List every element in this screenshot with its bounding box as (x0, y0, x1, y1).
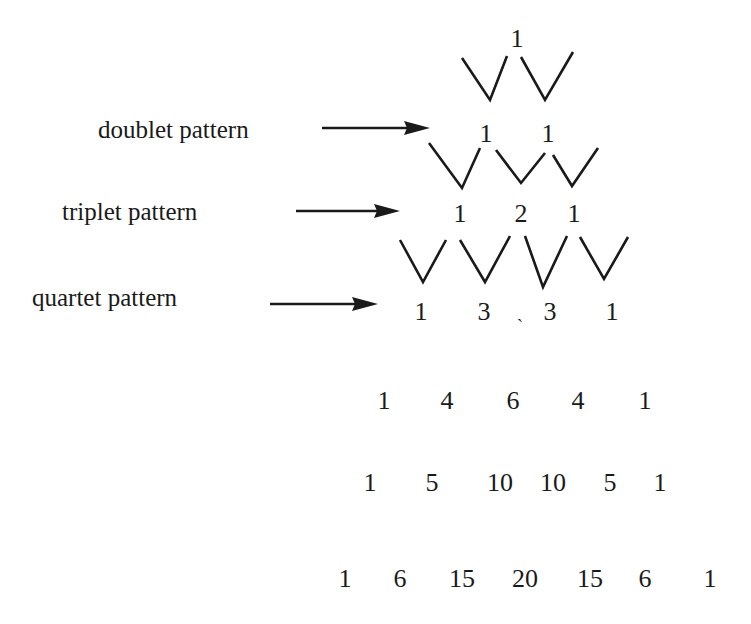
coefficient: 1 (654, 468, 667, 497)
triangle-row-6: 1615201561 (339, 564, 717, 593)
splitting-lines-row-3 (400, 236, 628, 287)
pascal-triangle-diagram: doublet pattern triplet pattern quartet … (0, 0, 751, 624)
coefficient: 6 (507, 386, 520, 415)
quartet-arrow (270, 297, 378, 311)
coefficient: 5 (426, 468, 439, 497)
splitting-lines-row-1 (462, 52, 573, 100)
coefficient: 10 (487, 468, 513, 497)
coefficient: 3 (478, 297, 491, 326)
coefficient: 20 (512, 564, 538, 593)
coefficient: 15 (449, 564, 475, 593)
triangle-row-4: 14641 (378, 386, 652, 415)
coefficient: 6 (639, 564, 652, 593)
coefficient: 10 (540, 468, 566, 497)
v-connector (400, 240, 446, 282)
coefficient: 6 (394, 564, 407, 593)
coefficient: 3 (544, 297, 557, 326)
coefficient: 1 (339, 564, 352, 593)
coefficient: 1 (568, 199, 581, 228)
v-connector (521, 52, 573, 100)
v-connector (460, 236, 510, 282)
triangle-row-1: 11 (480, 119, 555, 148)
stray-mark: ˏ (517, 302, 523, 322)
triangle-row-2: 121 (454, 199, 581, 228)
coefficient: 1 (542, 119, 555, 148)
coefficient: 1 (364, 468, 377, 497)
v-connector (429, 143, 480, 188)
triangle-svg: ˏ 111121133114641151010511615201561 (0, 0, 751, 624)
coefficient: 1 (606, 297, 619, 326)
coefficient: 1 (454, 199, 467, 228)
coefficient: 1 (415, 297, 428, 326)
v-connector (462, 56, 507, 100)
v-connector (525, 236, 567, 287)
triangle-row-5: 15101051 (364, 468, 667, 497)
coefficient: 1 (704, 564, 717, 593)
coefficient: 1 (511, 24, 524, 53)
coefficient: 2 (515, 199, 528, 228)
triangle-numbers: 111121133114641151010511615201561 (339, 24, 717, 593)
coefficient: 4 (572, 386, 585, 415)
doublet-arrow (322, 121, 430, 135)
coefficient: 1 (378, 386, 391, 415)
triangle-row-0: 1 (511, 24, 524, 53)
coefficient: 1 (480, 119, 493, 148)
v-connector (553, 148, 598, 186)
coefficient: 15 (577, 564, 603, 593)
triplet-arrow (296, 204, 400, 218)
v-connector (580, 237, 628, 279)
v-connector (496, 150, 545, 183)
splitting-lines-row-2 (429, 143, 598, 188)
coefficient: 1 (639, 386, 652, 415)
coefficient: 4 (441, 386, 454, 415)
coefficient: 5 (604, 468, 617, 497)
